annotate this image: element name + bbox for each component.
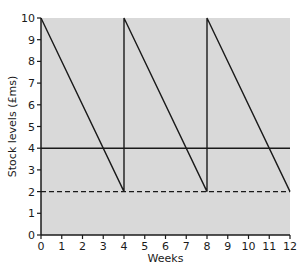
stock-level-chart: 0123456789101112012345678910 Weeks Stock… <box>0 0 301 271</box>
x-tick-label: 12 <box>283 240 297 253</box>
y-tick-label: 0 <box>28 229 35 242</box>
y-axis-label: Stock levels (£ms) <box>6 76 19 177</box>
y-tick-label: 7 <box>28 77 35 90</box>
y-tick-label: 1 <box>28 207 35 220</box>
y-tick-label: 5 <box>28 121 35 134</box>
y-tick-label: 2 <box>28 186 35 199</box>
x-tick-label: 10 <box>242 240 256 253</box>
x-axis-label: Weeks <box>148 252 184 265</box>
y-tick-label: 8 <box>28 55 35 68</box>
x-tick-label: 2 <box>79 240 86 253</box>
x-tick-label: 9 <box>224 240 231 253</box>
y-tick-label: 10 <box>21 12 35 25</box>
y-tick-label: 9 <box>28 34 35 47</box>
x-tick-label: 8 <box>204 240 211 253</box>
x-tick-label: 11 <box>262 240 276 253</box>
plot-background <box>41 18 290 235</box>
x-tick-label: 1 <box>58 240 65 253</box>
x-tick-label: 0 <box>38 240 45 253</box>
y-tick-label: 6 <box>28 99 35 112</box>
x-tick-label: 3 <box>100 240 107 253</box>
x-tick-label: 7 <box>183 240 190 253</box>
x-tick-label: 4 <box>121 240 128 253</box>
y-tick-label: 4 <box>28 142 35 155</box>
y-tick-label: 3 <box>28 164 35 177</box>
